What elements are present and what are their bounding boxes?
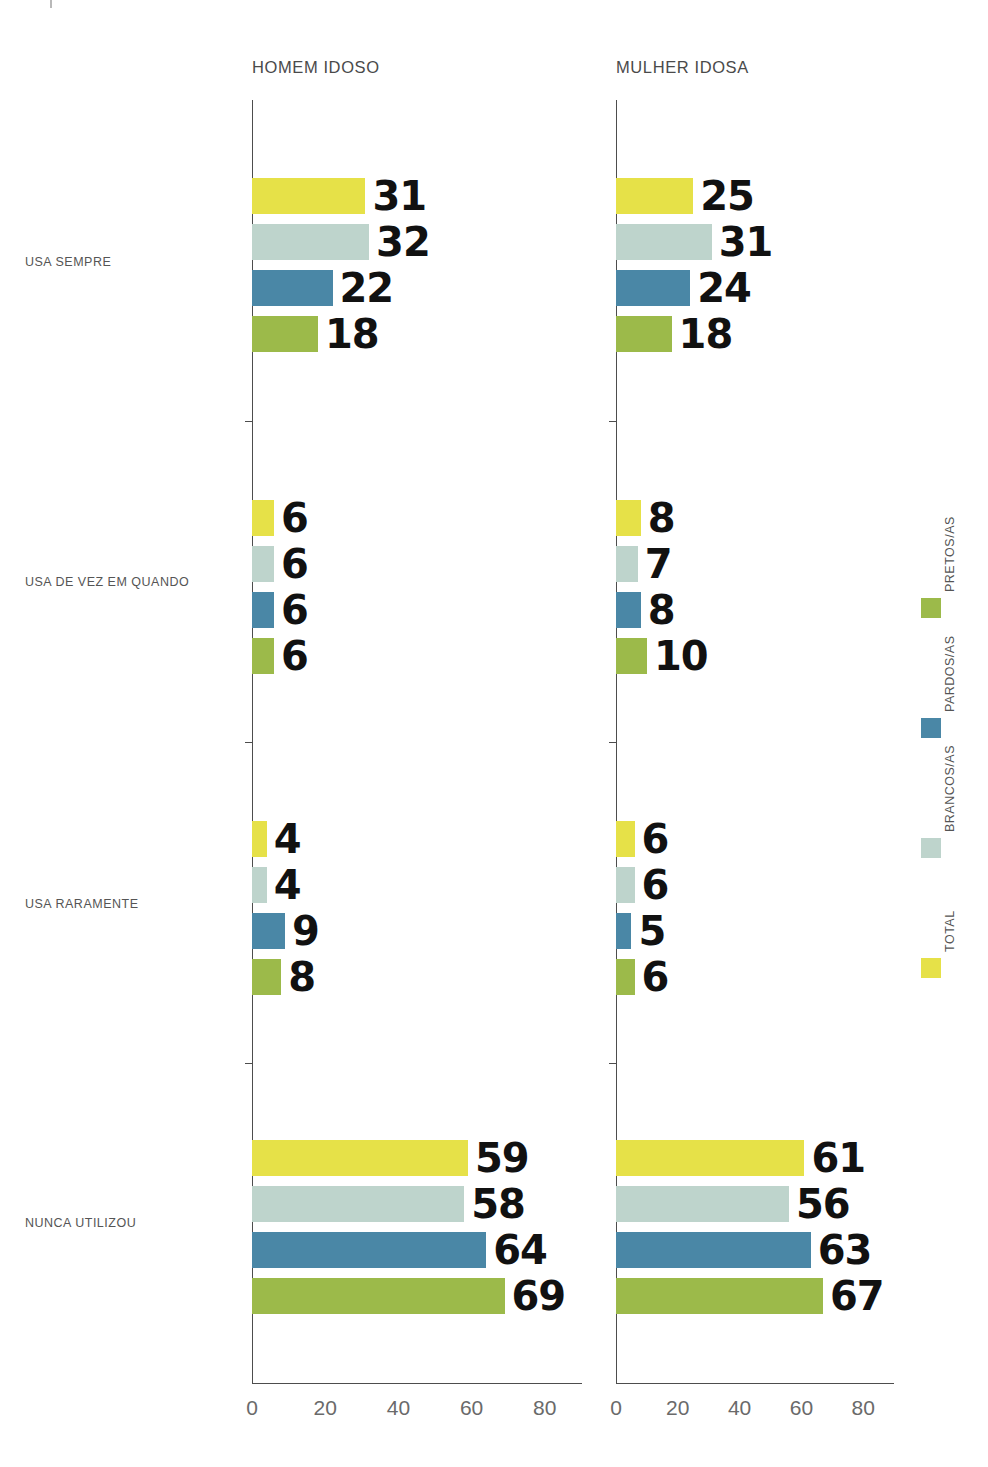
bar-value-label: 6: [642, 957, 669, 997]
bar-row: 18: [252, 316, 652, 352]
bar-value-label: 63: [818, 1230, 872, 1270]
bar-pretos-as: [616, 316, 672, 352]
category-label-usa-raramente: USA RARAMENTE: [25, 897, 240, 911]
bar-value-label: 6: [281, 544, 308, 584]
x-axis-line: [616, 1383, 894, 1384]
bar-value-label: 69: [512, 1276, 566, 1316]
bar-value-label: 18: [325, 314, 379, 354]
bar-value-label: 18: [679, 314, 733, 354]
bar-value-label: 56: [796, 1184, 850, 1224]
bar-value-label: 24: [697, 268, 751, 308]
bar-row: 56: [616, 1186, 988, 1222]
bar-value-label: 6: [281, 498, 308, 538]
bar-row: 6: [252, 500, 652, 536]
x-axis-tick-label: 60: [460, 1396, 483, 1420]
bar-row: 59: [252, 1140, 652, 1176]
bar-row: 31: [616, 224, 988, 260]
bar-value-label: 61: [811, 1138, 865, 1178]
bar-row: 67: [616, 1278, 988, 1314]
legend-label: TOTAL: [943, 910, 957, 952]
bar-value-label: 5: [638, 911, 665, 951]
bar-row: 25: [616, 178, 988, 214]
bar-value-label: 4: [274, 865, 301, 905]
bar-value-label: 64: [493, 1230, 547, 1270]
legend-swatch: [921, 718, 941, 738]
y-axis-tick: [609, 742, 616, 743]
legend-label: PRETOS/AS: [943, 516, 957, 592]
bar-pretos-as: [616, 959, 635, 995]
bar-pardos-as: [252, 1232, 486, 1268]
bar-pardos-as: [616, 592, 641, 628]
bar-pardos-as: [252, 913, 285, 949]
bar-value-label: 4: [274, 819, 301, 859]
bar-value-label: 8: [648, 498, 675, 538]
bar-row: 9: [252, 913, 652, 949]
bar-row: 63: [616, 1232, 988, 1268]
bar-total: [252, 821, 267, 857]
bar-row: 32: [252, 224, 652, 260]
bar-pretos-as: [252, 638, 274, 674]
bar-value-label: 6: [281, 590, 308, 630]
bar-total: [252, 178, 365, 214]
bar-row: 18: [616, 316, 988, 352]
bar-total: [616, 500, 641, 536]
bar-total: [252, 1140, 468, 1176]
bar-row: 24: [616, 270, 988, 306]
bar-value-label: 10: [654, 636, 708, 676]
bar-value-label: 59: [475, 1138, 529, 1178]
bar-pretos-as: [616, 1278, 823, 1314]
category-label-nunca-utilizou: NUNCA UTILIZOU: [25, 1216, 240, 1230]
x-axis-tick-label: 80: [533, 1396, 556, 1420]
bar-value-label: 58: [471, 1184, 525, 1224]
y-axis-tick: [245, 742, 252, 743]
legend: PRETOS/ASPARDOS/ASBRANCOS/ASTOTAL: [915, 520, 975, 960]
bar-value-label: 22: [340, 268, 394, 308]
x-axis-tick-label: 0: [246, 1396, 258, 1420]
bar-value-label: 7: [645, 544, 672, 584]
bar-brancos-as: [616, 1186, 789, 1222]
bar-total: [252, 500, 274, 536]
bar-row: 22: [252, 270, 652, 306]
bar-row: 4: [252, 867, 652, 903]
bar-brancos-as: [252, 867, 267, 903]
bar-pardos-as: [616, 270, 690, 306]
bar-pretos-as: [252, 316, 318, 352]
bar-total: [616, 178, 693, 214]
y-axis-tick: [609, 421, 616, 422]
bar-row: 4: [252, 821, 652, 857]
bar-value-label: 67: [830, 1276, 884, 1316]
bar-brancos-as: [616, 546, 638, 582]
bar-value-label: 8: [648, 590, 675, 630]
bar-value-label: 31: [372, 176, 426, 216]
panel-title-homem-idoso: HOMEM IDOSO: [252, 58, 380, 77]
x-axis-tick-label: 20: [666, 1396, 689, 1420]
bar-pretos-as: [252, 1278, 505, 1314]
bar-pardos-as: [616, 1232, 811, 1268]
grouped-bar-chart-figure: HOMEM IDOSO MULHER IDOSA USA SEMPRE USA …: [0, 0, 988, 1467]
y-axis-tick: [245, 1063, 252, 1064]
legend-swatch: [921, 598, 941, 618]
bar-brancos-as: [616, 867, 635, 903]
x-axis-tick-label: 20: [314, 1396, 337, 1420]
bar-value-label: 9: [292, 911, 319, 951]
bar-total: [616, 1140, 804, 1176]
bar-value-label: 25: [700, 176, 754, 216]
bar-row: 6: [252, 546, 652, 582]
bar-brancos-as: [616, 224, 712, 260]
legend-swatch: [921, 838, 941, 858]
bar-value-label: 6: [642, 819, 669, 859]
bar-pardos-as: [252, 592, 274, 628]
bar-row: 6: [252, 592, 652, 628]
bar-value-label: 8: [288, 957, 315, 997]
bar-brancos-as: [252, 224, 369, 260]
x-axis-line: [252, 1383, 582, 1384]
bar-pretos-as: [252, 959, 281, 995]
x-axis-tick-label: 60: [790, 1396, 813, 1420]
bar-brancos-as: [252, 1186, 464, 1222]
bar-value-label: 32: [376, 222, 430, 262]
scan-artifact: [50, 0, 52, 8]
bar-total: [616, 821, 635, 857]
bar-pretos-as: [616, 638, 647, 674]
bar-value-label: 6: [642, 865, 669, 905]
x-axis-tick-label: 40: [728, 1396, 751, 1420]
